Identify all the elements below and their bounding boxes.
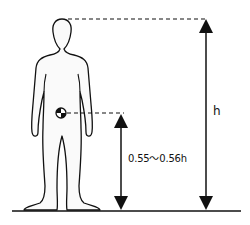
com-height-arrow — [114, 114, 128, 210]
total-height-arrow — [199, 19, 213, 210]
com-height-label: 0.55〜0.56h — [128, 150, 187, 165]
center-of-mass-marker — [56, 108, 66, 118]
height-label: h — [213, 104, 221, 118]
